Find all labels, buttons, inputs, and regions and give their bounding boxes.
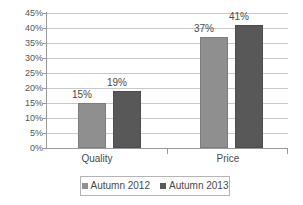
legend-label-autumn-2013: Autumn 2013 xyxy=(169,181,229,191)
bar-quality-autumn-2012[interactable] xyxy=(78,103,106,148)
bar-quality-autumn-2013[interactable] xyxy=(113,91,141,148)
chart-legend: Autumn 2012 Autumn 2013 xyxy=(80,176,230,196)
bar-chart: 45% 40% 35% 30% 25% 20% 15% 10% 5% 0% xyxy=(0,0,303,205)
y-tick-label-30: 30% xyxy=(3,54,43,63)
y-axis-labels: 45% 40% 35% 30% 25% 20% 15% 10% 5% 0% xyxy=(0,0,43,205)
value-label-quality-autumn-2013: 19% xyxy=(97,78,137,88)
y-tick-label-15: 15% xyxy=(3,99,43,108)
legend-label-autumn-2012: Autumn 2012 xyxy=(91,181,151,191)
y-tick-label-25: 25% xyxy=(3,69,43,78)
y-tick-label-5: 5% xyxy=(3,129,43,138)
bar-price-autumn-2012[interactable] xyxy=(200,37,228,148)
value-label-quality-autumn-2012: 15% xyxy=(62,90,102,100)
y-tick-label-10: 10% xyxy=(3,114,43,123)
bar-price-autumn-2013[interactable] xyxy=(235,25,263,148)
legend-swatch-icon-autumn-2013 xyxy=(160,183,166,189)
x-axis-label-price: Price xyxy=(198,154,258,164)
legend-swatch-icon-autumn-2012 xyxy=(82,183,88,189)
y-tick-label-0: 0% xyxy=(3,144,43,153)
y-tick-label-20: 20% xyxy=(3,84,43,93)
y-tick-label-45: 45% xyxy=(3,9,43,18)
x-axis-label-quality: Quality xyxy=(67,154,127,164)
legend-item-autumn-2013[interactable]: Autumn 2013 xyxy=(160,181,229,191)
x-tick-category-boundary xyxy=(167,149,168,154)
legend-item-autumn-2012[interactable]: Autumn 2012 xyxy=(82,181,151,191)
value-label-price-autumn-2012: 37% xyxy=(184,24,224,34)
x-tick-axis-end xyxy=(287,149,288,154)
y-tick-label-40: 40% xyxy=(3,24,43,33)
plot-area xyxy=(47,13,288,148)
value-label-price-autumn-2013: 41% xyxy=(219,12,259,22)
y-tick-label-35: 35% xyxy=(3,39,43,48)
